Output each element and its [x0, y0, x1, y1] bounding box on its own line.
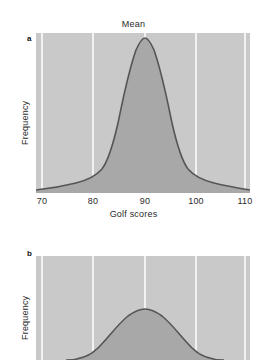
- x-tick-80: 80: [88, 196, 98, 206]
- distribution-chart-a: [36, 33, 250, 193]
- x-tick-70: 70: [37, 196, 47, 206]
- curve-fill-a: [36, 38, 250, 193]
- plot-area-b: [36, 256, 250, 360]
- panel-letter-b: b: [27, 250, 32, 258]
- x-axis-ticks-a: 70 80 90 100 110: [0, 196, 267, 208]
- x-tick-90: 90: [140, 196, 150, 206]
- panel-letter-a: a: [27, 35, 31, 43]
- plot-area-a: [36, 33, 250, 193]
- panel-b: b Frequency: [0, 228, 267, 360]
- x-axis-label-a: Golf scores: [0, 209, 267, 219]
- y-axis-label-b: Frequency: [20, 296, 30, 340]
- panel-a: Mean a Frequency 70 80 90 100 110 Golf s…: [0, 0, 267, 228]
- x-tick-100: 100: [188, 196, 204, 206]
- y-axis-label-a: Frequency: [20, 101, 30, 145]
- distribution-chart-b: [36, 256, 250, 360]
- x-tick-110: 110: [238, 196, 253, 206]
- curve-fill-b: [66, 309, 224, 360]
- mean-label: Mean: [0, 19, 267, 29]
